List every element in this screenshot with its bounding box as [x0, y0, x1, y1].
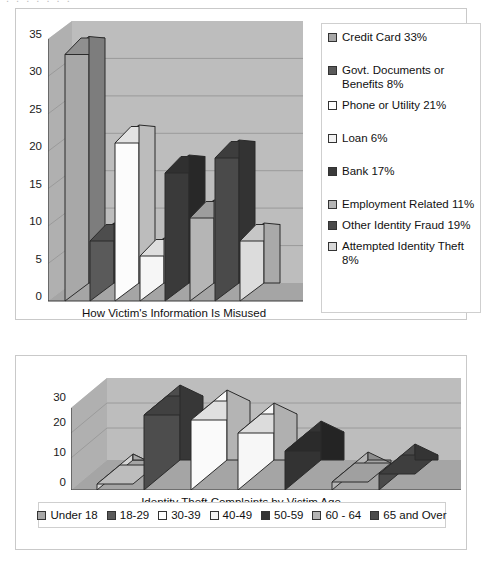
legend-swatch-icon: [158, 511, 167, 520]
legend-item-60-64[interactable]: 60 - 64: [312, 509, 361, 521]
legend-label: Loan 6%: [342, 131, 387, 145]
chart2-ytick-20: 20: [40, 416, 66, 428]
legend-label: Credit Card 33%: [342, 30, 427, 44]
legend-item-bank[interactable]: Bank 17%: [328, 164, 476, 178]
legend-item-credit-card[interactable]: Credit Card 33%: [328, 30, 476, 44]
legend-swatch-icon: [328, 66, 337, 75]
legend-item-30-39[interactable]: 30-39: [158, 509, 200, 521]
legend-label: 50-59: [274, 509, 303, 521]
legend-swatch-icon: [37, 511, 46, 520]
chart2-legend: Under 18 18-29 30-39 40-49 50-59 60 - 64…: [38, 502, 446, 528]
legend-item-attempted-identity-theft[interactable]: Attempted Identity Theft 8%: [328, 239, 476, 267]
chart1-ytick-15: 15: [18, 178, 42, 190]
legend-label: 65 and Over: [383, 509, 446, 521]
chart2-bars: [71, 360, 461, 490]
chart1-ytick-35: 35: [18, 28, 42, 40]
bar-attempted-identity-theft: [240, 223, 280, 301]
legend-label: 30-39: [171, 509, 200, 521]
legend-swatch-icon: [261, 511, 270, 520]
chart1-ytick-25: 25: [18, 103, 42, 115]
chart1-ytick-20: 20: [18, 140, 42, 152]
legend-item-under-18[interactable]: Under 18: [37, 509, 97, 521]
chart-panel-victim-age: 30 20 10 0 Identity Theft Complaints by …: [15, 355, 467, 550]
cropped-text: . . . . . . .: [6, 0, 72, 4]
legend-label: Phone or Utility 21%: [342, 98, 446, 112]
chart1-ytick-10: 10: [18, 215, 42, 227]
legend-item-40-49[interactable]: 40-49: [210, 509, 252, 521]
chart1-legend: Credit Card 33% Govt. Documents or Benef…: [321, 23, 481, 313]
legend-label: 18-29: [120, 509, 149, 521]
chart1-ytick-30: 30: [18, 65, 42, 77]
legend-swatch-icon: [370, 511, 379, 520]
chart1-x-axis-title: How Victim's Information Is Misused: [34, 307, 314, 319]
legend-label: Under 18: [50, 509, 97, 521]
legend-item-other-identity-fraud[interactable]: Other Identity Fraud 19%: [328, 218, 476, 232]
legend-label: Bank 17%: [342, 164, 394, 178]
legend-swatch-icon: [328, 167, 337, 176]
legend-item-50-59[interactable]: 50-59: [261, 509, 303, 521]
chart1-ytick-5: 5: [18, 253, 42, 265]
top-cropped-text-strip: . . . . . . .: [0, 0, 474, 4]
chart2-plot-area: [71, 360, 461, 490]
legend-swatch-icon: [328, 134, 337, 143]
bar-65-and-over: [379, 444, 438, 490]
legend-label: Attempted Identity Theft 8%: [342, 239, 476, 267]
legend-swatch-icon: [107, 511, 116, 520]
legend-swatch-icon: [328, 101, 337, 110]
legend-label: 60 - 64: [325, 509, 361, 521]
legend-item-65-and-over[interactable]: 65 and Over: [370, 509, 446, 521]
legend-swatch-icon: [328, 221, 337, 230]
legend-item-18-29[interactable]: 18-29: [107, 509, 149, 521]
legend-label: Employment Related 11%: [342, 197, 474, 211]
legend-swatch-icon: [328, 242, 337, 251]
legend-swatch-icon: [210, 511, 219, 520]
chart-panel-misuse: 35 30 25 20 15 10 5 0 How Victim's Infor…: [15, 8, 467, 320]
chart2-ytick-0: 0: [40, 476, 66, 488]
chart2-ytick-30: 30: [40, 391, 66, 403]
chart2-ytick-10: 10: [40, 446, 66, 458]
legend-item-loan[interactable]: Loan 6%: [328, 131, 476, 145]
legend-item-phone-utility[interactable]: Phone or Utility 21%: [328, 98, 476, 112]
legend-swatch-icon: [328, 200, 337, 209]
chart1-plot-area: [48, 15, 303, 311]
legend-item-govt-documents[interactable]: Govt. Documents or Benefits 8%: [328, 63, 476, 91]
legend-swatch-icon: [312, 511, 321, 520]
legend-swatch-icon: [328, 33, 337, 42]
chart1-bars: [48, 15, 303, 311]
legend-label: 40-49: [223, 509, 252, 521]
legend-label: Govt. Documents or Benefits 8%: [342, 63, 476, 91]
legend-item-employment-related[interactable]: Employment Related 11%: [328, 197, 476, 211]
chart1-ytick-0: 0: [18, 290, 42, 302]
legend-label: Other Identity Fraud 19%: [342, 218, 470, 232]
